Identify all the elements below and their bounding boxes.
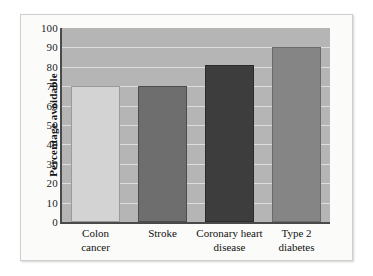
- bar-stroke[interactable]: [138, 86, 187, 222]
- y-axis-tick-label: 70: [47, 80, 58, 92]
- y-axis-tick-label: 60: [47, 100, 58, 112]
- y-axis-tick-label: 50: [47, 119, 58, 131]
- x-axis-label-line: diabetes: [254, 240, 339, 254]
- x-axis-label-line: Type 2: [254, 226, 339, 240]
- y-axis-tick-label: 90: [47, 41, 58, 53]
- plot-area: [62, 28, 330, 222]
- bar-type-2-diabetes[interactable]: [272, 47, 321, 222]
- y-axis-tick-label: 20: [47, 177, 58, 189]
- y-axis-tick-label: 40: [47, 138, 58, 150]
- x-axis-label-line: cancer: [53, 240, 138, 254]
- y-axis-line: [60, 28, 62, 222]
- bar-coronary-heart-disease[interactable]: [205, 65, 254, 222]
- y-axis-tick-label: 80: [47, 61, 58, 73]
- x-axis-category-labels: ColoncancerStrokeCoronary heartdiseaseTy…: [62, 226, 330, 262]
- figure-frame: Percentage avoidable 1009080706050403020…: [20, 14, 353, 261]
- x-axis-line: [60, 222, 330, 224]
- y-axis-tick-labels: 1009080706050403020100: [21, 28, 58, 222]
- bar-colon-cancer[interactable]: [71, 86, 120, 222]
- y-axis-tick-label: 100: [41, 22, 58, 34]
- bar-chart: Percentage avoidable 1009080706050403020…: [21, 15, 352, 260]
- x-axis-label-type-2-diabetes: Type 2diabetes: [254, 226, 339, 254]
- y-axis-tick-label: 10: [47, 197, 58, 209]
- y-axis-tick-label: 30: [47, 158, 58, 170]
